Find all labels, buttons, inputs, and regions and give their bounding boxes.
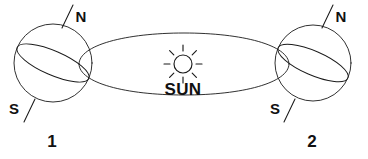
sun-ray-nw	[170, 51, 174, 55]
sun-ray-sw	[170, 73, 174, 77]
earth-2-north-pole-label: N	[336, 8, 347, 25]
earth-2-equator	[273, 37, 352, 89]
earth-2-south-axis-tick	[284, 99, 295, 122]
sun-label: SUN	[164, 80, 201, 99]
earth-2-globe	[275, 25, 351, 101]
earth-1-index-label: 1	[47, 132, 56, 151]
orbit-ellipse-top-arc	[79, 33, 289, 64]
earth-1-north-pole-label: N	[76, 8, 87, 25]
earth-1-equator	[12, 36, 93, 89]
sun-ray-se	[192, 73, 196, 77]
earth-2-index-label: 2	[307, 132, 316, 151]
sun-disk	[174, 55, 192, 73]
earth-1-globe	[14, 24, 92, 102]
earth-1-south-pole-label: S	[9, 100, 19, 117]
sun-ray-ne	[192, 51, 196, 55]
earth-orbit-diagram: N S 1 N S 2 SUN	[0, 0, 368, 159]
sun-icon	[164, 45, 202, 83]
earth-2-north-axis-tick	[322, 5, 333, 28]
earth-1-south-axis-tick	[24, 99, 35, 122]
earth-1-north-axis-tick	[62, 5, 73, 28]
diagram-canvas: N S 1 N S 2 SUN	[0, 0, 368, 159]
earth-2-south-pole-label: S	[270, 100, 280, 117]
